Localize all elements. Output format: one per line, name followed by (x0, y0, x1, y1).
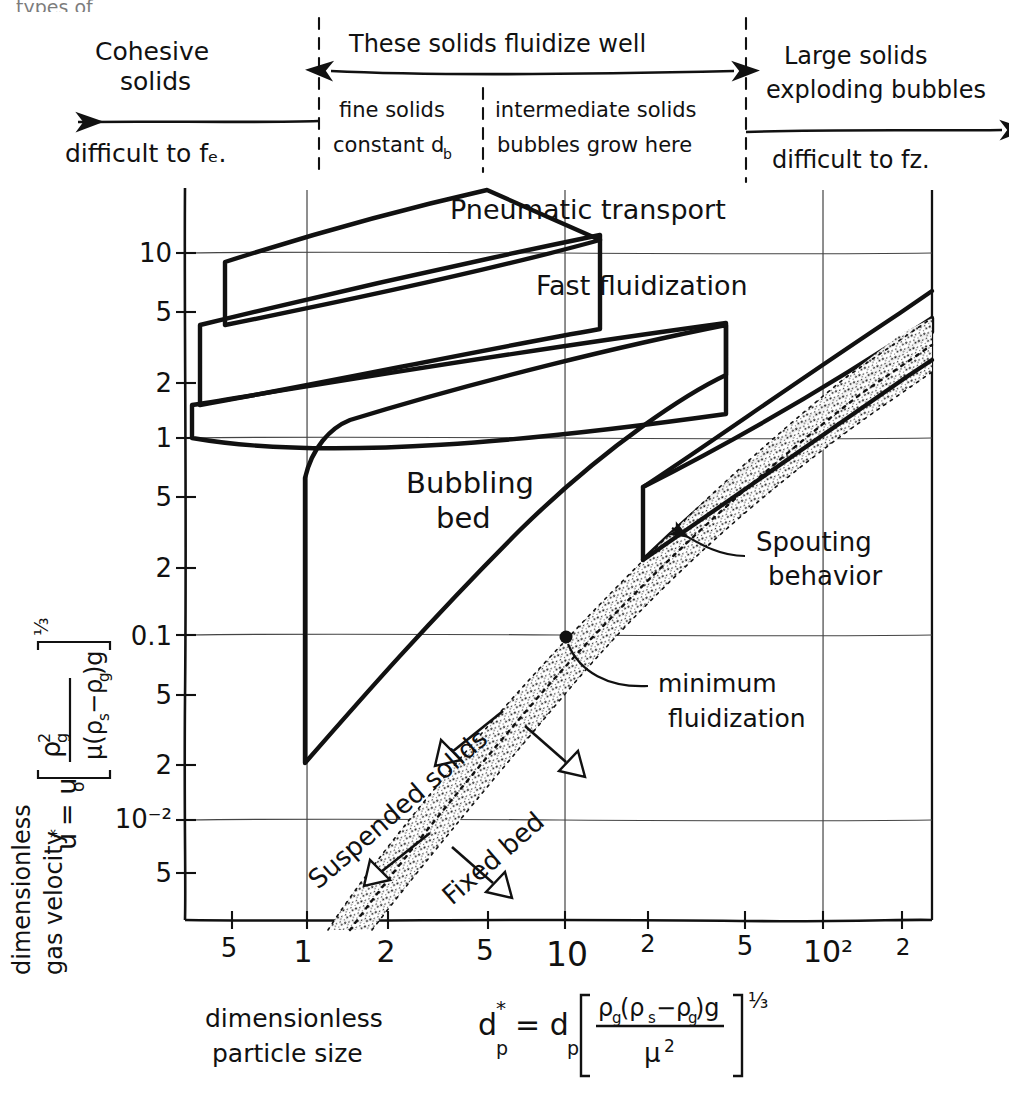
label-spouting-behavior-line1: Spouting (756, 527, 872, 557)
svg-text:*: * (496, 996, 506, 1020)
svg-text:g: g (52, 733, 71, 743)
svg-text:p: p (567, 1037, 579, 1059)
x-tick-label-5: 2 (640, 930, 655, 958)
y-tick-label-10: 5 (155, 858, 172, 888)
cohesive-solids-line2: solids (120, 67, 191, 96)
svg-text:μ(ρ: μ(ρ (80, 720, 108, 760)
label-spouting-behavior-line2: behavior (768, 561, 882, 591)
y-axis-title-line2: gas velocity (40, 831, 68, 975)
y-tick-label-0: 10 (139, 238, 172, 268)
x-tick-label-8: 2 (896, 934, 911, 960)
region-labels: Pneumatic transport Fast fluidization Bu… (302, 194, 882, 911)
minimum-fluidization-band (300, 300, 960, 960)
label-bubbling-bed-line1: Bubbling (406, 466, 534, 500)
svg-text:2: 2 (664, 1036, 675, 1056)
left-arrow-icon (78, 121, 319, 122)
svg-text:s: s (648, 1009, 656, 1027)
svg-text:−ρ: −ρ (656, 994, 691, 1022)
svg-text:(ρ: (ρ (620, 994, 645, 1022)
svg-text:⅓: ⅓ (748, 989, 768, 1013)
intermediate-solids-line2: bubbles grow here (497, 133, 692, 157)
x-tick-label-3: 5 (476, 934, 494, 967)
y-tick-labels: 10 5 2 1 5 2 0.1 5 2 10⁻² 5 (115, 238, 172, 888)
fine-solids-line1: fine solids (339, 98, 445, 122)
x-tick-label-2: 2 (376, 934, 395, 969)
clipped-top-text-label: types of (16, 0, 94, 18)
svg-text:o: o (68, 782, 88, 792)
y-tick-label-7: 5 (155, 680, 172, 710)
large-solids-difficult-label: difficult to fz. (772, 146, 930, 174)
y-axis-title-group: dimensionless gas velocity u* = u₀ [ ρg²… (8, 618, 113, 975)
label-pneumatic-transport: Pneumatic transport (450, 194, 726, 225)
large-solids-line2: exploding bubbles (766, 76, 986, 104)
fine-solids-line2-group: constant d b (333, 133, 452, 162)
svg-text:2: 2 (35, 733, 54, 743)
fine-solids-subscript: b (443, 146, 452, 162)
clipped-top-text: types of (16, 0, 94, 18)
y-axis-formula: u* = u₀ [ ρg² / μ(ρs−ρg)g ]^⅓ u * = u o … (30, 618, 113, 850)
right-arrow-icon (746, 130, 1002, 132)
x-tick-label-4: 10 (546, 935, 588, 974)
y-tick-label-4: 5 (155, 482, 172, 512)
svg-text:*: * (45, 829, 66, 838)
y-tick-label-9: 10⁻² (115, 804, 172, 834)
x-axis-formula-glyphs: d * p = d p ρ g (ρ s −ρ g )g μ 2 (478, 989, 768, 1076)
minimum-fluidization-label-line1: minimum (658, 669, 777, 698)
x-axis-line (185, 920, 932, 921)
y-tick-label-6: 0.1 (131, 621, 172, 651)
minimum-fluidization-label-line2: fluidization (668, 704, 806, 733)
cohesive-difficult-label: difficult to fₑ. (65, 139, 227, 168)
y-axis-title-line1: dimensionless (8, 804, 36, 975)
x-tick-labels: 5 1 2 5 10 2 5 10² 2 (221, 930, 911, 974)
gridline-y-0.01 (185, 819, 932, 821)
large-solids-line1: Large solids (784, 42, 927, 70)
svg-text:ρ: ρ (598, 994, 613, 1022)
svg-text:−ρ: −ρ (80, 679, 108, 714)
figure-root: types of Cohesive solids difficult to fₑ… (0, 0, 1009, 1105)
center-double-arrow-icon (331, 71, 734, 74)
fine-solids-line2: constant d (333, 133, 444, 157)
svg-text:)g: )g (80, 650, 108, 675)
x-tick-label-0: 5 (221, 933, 238, 963)
svg-text:p: p (496, 1037, 508, 1059)
x-tick-label-6: 5 (737, 931, 754, 961)
svg-text:μ: μ (644, 1038, 661, 1068)
x-tick-label-7: 10² (803, 934, 853, 969)
y-tick-label-5: 2 (155, 553, 172, 583)
gridline-y-0.1 (185, 634, 932, 636)
top-banner: types of Cohesive solids difficult to fₑ… (16, 0, 1002, 182)
plot-right-border (932, 190, 933, 920)
x-axis-formula: d*p = dp [ ρg(ρs−ρg)g / μ² ]^⅓ d * p = d… (470, 989, 768, 1076)
x-axis-title-group: dimensionless particle size d*p = dp [ ρ… (205, 989, 768, 1076)
svg-text:⅓: ⅓ (30, 618, 52, 636)
x-axis-title-line2: particle size (212, 1039, 363, 1068)
y-axis-formula-glyphs: u * = u o ρ g 2 μ(ρ s −ρ g )g ⅓ (30, 618, 113, 850)
fluidize-well-label: These solids fluidize well (348, 30, 646, 58)
regime-map-figure: types of Cohesive solids difficult to fₑ… (0, 0, 1009, 1105)
minimum-fluidization-point (560, 631, 573, 644)
svg-text:= d: = d (515, 1007, 569, 1042)
y-tick-label-2: 2 (155, 368, 172, 398)
svg-text:)g: )g (695, 994, 720, 1022)
y-tick-label-1: 5 (155, 297, 172, 327)
y-tick-label-8: 2 (155, 750, 172, 780)
label-fast-fluidization: Fast fluidization (536, 270, 748, 301)
band-lower-edge (372, 372, 932, 930)
x-tick-label-1: 1 (293, 934, 312, 969)
y-axis-line (185, 188, 186, 920)
y-tick-label-3: 1 (155, 423, 172, 453)
intermediate-solids-line1: intermediate solids (495, 98, 697, 122)
svg-text:d: d (478, 1007, 497, 1042)
x-axis-title-line1: dimensionless (205, 1004, 383, 1033)
cohesive-solids-line1: Cohesive (95, 37, 209, 66)
label-bubbling-bed-line2: bed (436, 501, 491, 535)
